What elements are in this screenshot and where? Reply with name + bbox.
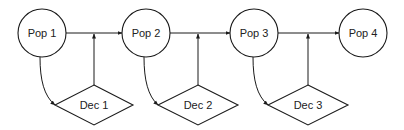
population-decision-diagram: Pop 1 Pop 2 Pop 3 Pop 4 Dec 1 Dec 2 Dec … (0, 0, 404, 130)
node-dec-1: Dec 1 (55, 85, 133, 125)
node-dec-3: Dec 3 (268, 85, 348, 125)
node-label: Dec 2 (184, 99, 213, 111)
node-pop-1: Pop 1 (18, 9, 66, 57)
node-label: Pop 1 (28, 27, 57, 39)
node-label: Dec 3 (294, 99, 323, 111)
node-label: Pop 4 (349, 27, 378, 39)
edge-pop2-to-dec2 (144, 57, 158, 105)
edge-pop3-to-dec3 (253, 57, 268, 105)
node-label: Pop 3 (240, 27, 269, 39)
node-dec-2: Dec 2 (158, 85, 238, 125)
node-pop-3: Pop 3 (230, 9, 278, 57)
node-label: Dec 1 (80, 99, 109, 111)
node-pop-2: Pop 2 (122, 9, 170, 57)
edge-pop1-to-dec1 (40, 57, 55, 105)
node-label: Pop 2 (132, 27, 161, 39)
node-pop-4: Pop 4 (339, 9, 387, 57)
